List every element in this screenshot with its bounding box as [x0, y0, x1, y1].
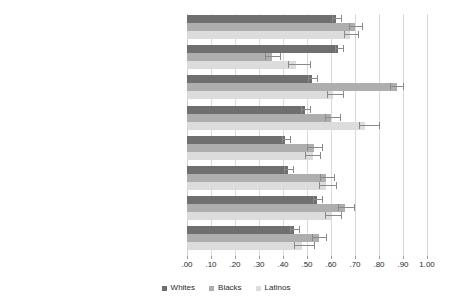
legend-item-latinos[interactable]: Latinos [256, 283, 291, 293]
x-tick-mark [355, 256, 356, 259]
bar-row [187, 234, 428, 242]
error-bar-cap [308, 75, 309, 82]
bar-row [187, 182, 428, 190]
bar-blacks [187, 204, 345, 212]
error-bar [344, 34, 358, 36]
error-bar-cap [288, 61, 289, 68]
bar-whites [187, 166, 288, 174]
bar-row [187, 106, 428, 114]
error-bar-line [359, 125, 381, 126]
bar-latinos [187, 242, 302, 250]
error-bar-cap [334, 174, 335, 181]
bar-row [187, 31, 428, 39]
bar-blacks [187, 174, 326, 182]
x-tick-mark [379, 256, 380, 259]
bar-group: Empathy for Blacks [187, 75, 428, 99]
bar-blacks [187, 23, 355, 31]
bar-row [187, 196, 428, 204]
error-bar-cap [314, 242, 315, 249]
error-bar-cap [325, 114, 326, 121]
bar-group: Empathy for LGBTQ [187, 226, 428, 250]
x-tick-label: .50 [301, 260, 312, 270]
bar-row [187, 15, 428, 23]
error-bar-line [390, 86, 404, 87]
x-tick-label: .40 [277, 260, 288, 270]
error-bar-line [344, 34, 358, 35]
error-bar [332, 18, 342, 20]
error-bar [301, 109, 311, 111]
bar-blacks [187, 114, 331, 122]
bar-group: Empathy for Undocumented Immigrants [187, 166, 428, 190]
error-bar-cap [343, 91, 344, 98]
error-bar-cap [327, 91, 328, 98]
error-bar-cap [341, 15, 342, 22]
error-bar-cap [294, 242, 295, 249]
legend-swatch-icon [162, 286, 167, 291]
error-bar-cap [319, 182, 320, 189]
x-tick-mark [331, 256, 332, 259]
error-bar-line [288, 64, 311, 65]
error-bar-line [338, 207, 355, 208]
bar-latinos [187, 122, 365, 130]
bar-row [187, 136, 428, 144]
error-bar-cap [362, 23, 363, 30]
error-bar-line [294, 245, 316, 246]
bar-group: Empathy for Latinos [187, 106, 428, 130]
bar-group: Empathy for Arabs [187, 136, 428, 160]
error-bar-cap [335, 45, 336, 52]
legend-item-blacks[interactable]: Blacks [209, 283, 242, 293]
error-bar-line [320, 177, 334, 178]
bar-row [187, 75, 428, 83]
bar-row [187, 83, 428, 91]
error-bar-cap [320, 152, 321, 159]
error-bar-cap [290, 226, 291, 233]
error-bar-line [265, 56, 281, 57]
legend-label: Whites [171, 283, 195, 293]
bar-row [187, 166, 428, 174]
x-tick-label: .20 [229, 260, 240, 270]
error-bar [335, 48, 345, 50]
error-bar-cap [336, 182, 337, 189]
error-bar [390, 86, 404, 88]
bar-row [187, 174, 428, 182]
error-bar [294, 245, 316, 247]
error-bar-line [327, 94, 344, 95]
bar-blacks [187, 234, 319, 242]
error-bar [325, 117, 341, 119]
grouped-bar-chart: GEIEmpathy for WhitesEmpathy for BlacksE… [0, 0, 452, 308]
error-bar-cap [301, 106, 302, 113]
x-axis: .00.10.20.30.40.50.60.70.80.901.00 [187, 256, 428, 276]
error-bar [327, 94, 344, 96]
error-bar-cap [307, 144, 308, 151]
error-bar [325, 215, 342, 217]
error-bar [284, 169, 294, 171]
error-bar-cap [390, 83, 391, 90]
bar-whites [187, 136, 285, 144]
error-bar-cap [325, 212, 326, 219]
bar-whites [187, 45, 338, 53]
error-bar [349, 26, 363, 28]
bar-row [187, 53, 428, 61]
bar-latinos [187, 152, 313, 160]
error-bar-cap [349, 23, 350, 30]
bar-latinos [187, 212, 331, 220]
legend-label: Latinos [265, 283, 291, 293]
bar-whites [187, 106, 305, 114]
legend-item-whites[interactable]: Whites [162, 283, 195, 293]
error-bar [313, 199, 323, 201]
error-bar-line [307, 147, 323, 148]
legend-swatch-icon [209, 286, 214, 291]
error-bar [359, 125, 381, 127]
bar-row [187, 91, 428, 99]
x-tick-label: 1.00 [419, 260, 435, 270]
bar-row [187, 212, 428, 220]
error-bar-cap [265, 53, 266, 60]
error-bar-cap [359, 122, 360, 129]
error-bar-cap [343, 45, 344, 52]
error-bar-cap [310, 106, 311, 113]
x-tick-label: .10 [205, 260, 216, 270]
x-tick-mark [211, 256, 212, 259]
error-bar-line [325, 215, 342, 216]
error-bar-cap [290, 136, 291, 143]
x-tick-mark [283, 256, 284, 259]
